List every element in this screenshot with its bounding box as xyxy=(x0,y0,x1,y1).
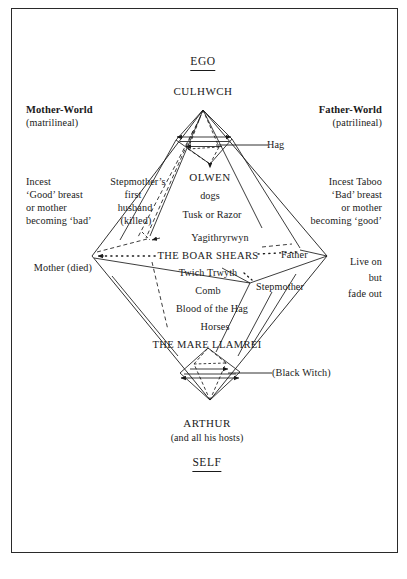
side-note-left-1: ‘Good’ breast xyxy=(26,189,83,201)
outcome-note-0: Live on xyxy=(350,256,382,268)
self-label: SELF xyxy=(192,456,221,472)
pole-father-world-subtitle: (patrilineal) xyxy=(333,117,382,129)
central-seq-yagithryrwyn: Yagithryrwyn xyxy=(191,232,248,244)
figure-page: EGO CULHWCH Mother-World (matrilineal) F… xyxy=(0,0,407,579)
side-note-right-1: ‘Bad’ breast xyxy=(331,189,382,201)
side-note-left-2: or mother xyxy=(26,202,67,214)
outcome-note-1: but xyxy=(369,272,382,284)
label-stepmothers-first-husband-0: Stepmother’s xyxy=(110,176,165,188)
central-seq-twich-trwyth: Twich Trwyth xyxy=(179,267,238,279)
label-stepmothers-first-husband-2: husband xyxy=(118,202,153,214)
central-seq-blood-of-the-hag: Blood of the Hag xyxy=(176,303,248,315)
label-mother-died: Mother (died) xyxy=(34,262,92,274)
side-note-right-2: or mother xyxy=(341,202,382,214)
outcome-note-2: fade out xyxy=(348,288,382,300)
label-hag: Hag xyxy=(267,139,284,151)
central-seq-dogs: dogs xyxy=(200,190,220,202)
central-seq-tusk-or-razor: Tusk or Razor xyxy=(182,209,241,221)
side-note-left-3: becoming ‘bad’ xyxy=(26,215,92,227)
side-note-left-0: Incest xyxy=(26,176,51,188)
label-black-witch: (Black Witch) xyxy=(272,367,331,379)
ego-label: EGO xyxy=(190,55,215,71)
central-seq-horses: Horses xyxy=(201,321,230,333)
side-note-right-0: Incest Taboo xyxy=(329,176,382,188)
node-culhwch: CULHWCH xyxy=(173,85,232,98)
label-stepmothers-first-husband-3: (killed) xyxy=(121,215,152,227)
central-seq-mare-llamrei: THE MARE LLAMREI xyxy=(152,339,261,351)
label-stepmothers-first-husband-1: first xyxy=(125,189,142,201)
pole-mother-world-subtitle: (matrilineal) xyxy=(26,117,78,129)
label-stepmother: Stepmother xyxy=(256,281,304,293)
pole-father-world-title: Father-World xyxy=(319,104,382,116)
label-father: Father xyxy=(281,249,308,261)
central-seq-olwen: OLWEN xyxy=(189,171,230,184)
node-arthur: ARTHUR xyxy=(183,417,231,430)
pole-mother-world-title: Mother-World xyxy=(26,104,93,116)
node-arthur-sub: (and all his hosts) xyxy=(171,432,244,444)
side-note-right-3: becoming ‘good’ xyxy=(311,215,382,227)
central-seq-boar-shears: THE BOAR SHEARS xyxy=(157,250,258,262)
central-seq-comb: Comb xyxy=(195,285,220,297)
